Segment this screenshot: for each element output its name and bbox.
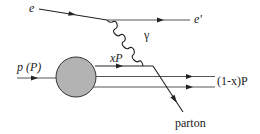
remnant-line-lower	[93, 85, 215, 90]
dis-feynman-diagram: e e' γ p (P) xP (1-x)P parton	[0, 0, 260, 134]
label-parton-momentum: xP	[109, 51, 123, 65]
incoming-electron-line	[39, 9, 107, 20]
label-parton-out: parton	[175, 116, 206, 130]
incoming-proton-line	[17, 76, 56, 81]
proton-blob	[56, 57, 96, 97]
label-proton: p (P)	[16, 60, 41, 74]
label-electron-out: e'	[194, 12, 202, 26]
arrow-icon	[31, 76, 38, 81]
arrow-icon	[171, 95, 178, 103]
struck-parton-line	[95, 64, 153, 69]
label-remnant: (1-x)P	[217, 74, 248, 88]
label-electron-in: e	[29, 1, 35, 15]
outgoing-parton-line	[153, 66, 183, 112]
label-photon: γ	[143, 28, 150, 42]
arrow-icon	[157, 18, 164, 23]
arrow-icon	[186, 74, 193, 79]
outgoing-electron-line	[107, 18, 190, 23]
arrow-icon	[186, 85, 193, 90]
remnant-line-upper	[96, 74, 215, 79]
